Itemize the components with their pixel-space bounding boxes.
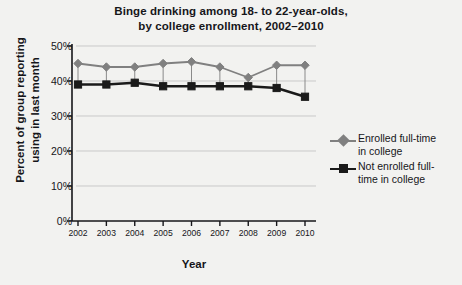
- chart-legend: Enrolled full-time in college Not enroll…: [330, 132, 458, 188]
- diamond-marker-icon: [337, 134, 350, 147]
- legend-label-not-enrolled-line-1: Not enrolled full-: [358, 160, 434, 172]
- data-point-enrolled-2002: [74, 59, 82, 67]
- legend-label-not-enrolled-line-2: time in college: [358, 173, 425, 185]
- data-point-not-enrolled-2006: [188, 83, 195, 90]
- legend-item-not-enrolled-full-time: Not enrolled full- time in college: [330, 160, 458, 185]
- data-point-enrolled-2010: [301, 61, 309, 69]
- legend-label-enrolled-line-2: in college: [358, 145, 402, 157]
- data-point-not-enrolled-2009: [273, 84, 280, 91]
- legend-label-not-enrolled: Not enrolled full- time in college: [356, 160, 434, 185]
- data-point-enrolled-2004: [131, 63, 139, 71]
- square-marker-icon: [339, 164, 348, 173]
- data-point-enrolled-2003: [102, 63, 110, 71]
- legend-label-enrolled: Enrolled full-time in college: [356, 132, 436, 157]
- legend-swatch-not-enrolled: [330, 161, 356, 177]
- data-point-enrolled-2009: [272, 61, 280, 69]
- data-point-not-enrolled-2008: [245, 83, 252, 90]
- data-point-not-enrolled-2005: [160, 83, 167, 90]
- data-point-not-enrolled-2007: [216, 83, 223, 90]
- data-point-enrolled-2007: [216, 63, 224, 71]
- data-point-not-enrolled-2004: [131, 79, 138, 86]
- data-point-enrolled-2005: [159, 59, 167, 67]
- data-point-enrolled-2008: [244, 73, 252, 81]
- binge-drinking-line-chart: Binge drinking among 18- to 22-year-olds…: [0, 0, 462, 285]
- data-point-not-enrolled-2010: [301, 93, 308, 100]
- data-point-enrolled-2006: [187, 58, 195, 66]
- data-point-not-enrolled-2002: [74, 81, 81, 88]
- legend-item-enrolled-full-time: Enrolled full-time in college: [330, 132, 458, 157]
- legend-label-enrolled-line-1: Enrolled full-time: [358, 132, 436, 144]
- data-point-not-enrolled-2003: [103, 81, 110, 88]
- legend-swatch-enrolled: [330, 133, 356, 149]
